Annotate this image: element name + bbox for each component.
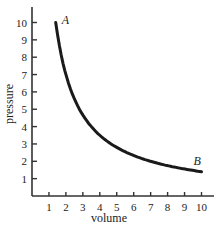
y-tick-label: 8 bbox=[22, 51, 28, 63]
data-curve bbox=[56, 23, 202, 172]
y-tick-label: 9 bbox=[22, 34, 28, 46]
pressure-volume-chart: 1234567891012345678910 A B volume pressu… bbox=[0, 0, 221, 228]
x-axis-label: volume bbox=[91, 211, 127, 225]
y-tick-label: 7 bbox=[22, 69, 28, 81]
x-tick-label: 6 bbox=[131, 201, 137, 213]
x-tick-label: 2 bbox=[63, 201, 69, 213]
y-tick-label: 10 bbox=[16, 17, 28, 29]
axes bbox=[32, 7, 214, 196]
x-tick-label: 1 bbox=[46, 201, 52, 213]
y-tick-label: 5 bbox=[22, 103, 28, 115]
x-tick-label: 8 bbox=[165, 201, 171, 213]
y-axis-label: pressure bbox=[2, 84, 16, 124]
x-tick-label: 7 bbox=[148, 201, 154, 213]
annotation-a: A bbox=[61, 13, 70, 27]
y-tick-label: 4 bbox=[22, 121, 28, 133]
y-tick-label: 2 bbox=[22, 155, 28, 167]
annotation-b: B bbox=[194, 154, 202, 168]
ticks: 1234567891012345678910 bbox=[16, 17, 208, 214]
y-tick-label: 3 bbox=[22, 138, 28, 150]
x-tick-label: 10 bbox=[196, 201, 208, 213]
x-tick-label: 9 bbox=[182, 201, 188, 213]
x-tick-label: 3 bbox=[80, 201, 86, 213]
y-tick-label: 1 bbox=[22, 173, 28, 185]
y-tick-label: 6 bbox=[22, 86, 28, 98]
